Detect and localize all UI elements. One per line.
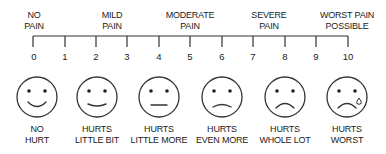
tick-label-5: 5 bbox=[187, 51, 192, 62]
category-mild-pain: MILD PAIN bbox=[102, 10, 123, 32]
caption-hurts-little-bit: HURTS LITTLE BIT bbox=[75, 124, 119, 146]
caption-hurts-even-more: HURTS EVEN MORE bbox=[196, 124, 248, 146]
tick-label-10: 10 bbox=[343, 51, 354, 62]
category-severe-pain: SEVERE PAIN bbox=[251, 10, 286, 32]
category-moderate-pain: MODERATE PAIN bbox=[166, 10, 215, 32]
face-icon-neutral bbox=[139, 77, 179, 117]
tick-label-1: 1 bbox=[62, 51, 67, 62]
face-icon-smile bbox=[77, 77, 117, 117]
caption-no-hurt: NO HURT bbox=[25, 124, 49, 146]
tick-label-4: 4 bbox=[156, 51, 161, 62]
scale-ticks bbox=[33, 36, 348, 47]
caption-hurts-whole-lot: HURTS WHOLE LOT bbox=[259, 124, 310, 146]
tick-label-8: 8 bbox=[282, 51, 287, 62]
caption-hurts-worst: HURTS WORST bbox=[331, 124, 364, 146]
faces-group bbox=[17, 77, 367, 117]
tick-label-7: 7 bbox=[250, 51, 255, 62]
tick-label-0: 0 bbox=[31, 51, 36, 62]
face-icon-frown-tear bbox=[327, 77, 367, 117]
category-no-pain: NO PAIN bbox=[24, 10, 44, 32]
face-icon-slight-frown bbox=[202, 77, 242, 117]
tick-label-3: 3 bbox=[124, 51, 129, 62]
category-worst-pain: WORST PAIN POSSIBLE bbox=[320, 10, 374, 32]
tick-label-9: 9 bbox=[313, 51, 318, 62]
tick-label-6: 6 bbox=[219, 51, 224, 62]
tear-icon bbox=[357, 98, 362, 104]
tick-label-2: 2 bbox=[93, 51, 98, 62]
face-icon-frown bbox=[265, 77, 305, 117]
face-icon-big-smile bbox=[17, 77, 57, 117]
caption-hurts-little-more: HURTS LITTLE MORE bbox=[131, 124, 188, 146]
